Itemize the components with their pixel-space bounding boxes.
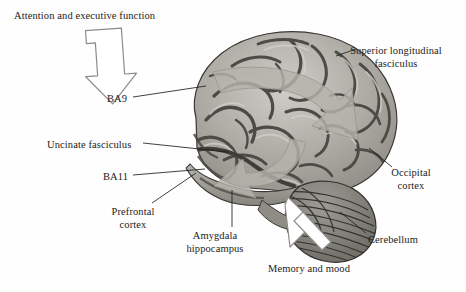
label-amygdala-hippocampus: Amygdala hippocampus bbox=[165, 230, 265, 255]
label-memory-and-mood: Memory and mood bbox=[268, 263, 350, 276]
label-ba9: BA9 bbox=[107, 93, 127, 106]
label-uncinate-fasciculus: Uncinate fasciculus bbox=[47, 139, 131, 152]
label-attention-and-executive-function: Attention and executive function bbox=[14, 10, 155, 23]
label-ba11: BA11 bbox=[103, 171, 128, 184]
label-occipital-cortex: Occipital cortex bbox=[376, 167, 446, 192]
label-cerebellum: Cerebellum bbox=[368, 234, 418, 247]
brain-anatomy-figure: Attention and executive function BA9 Unc… bbox=[0, 0, 466, 292]
label-prefrontal-cortex: Prefrontal cortex bbox=[93, 206, 173, 231]
label-superior-longitudinal-fasciculus: Superior longitudinal fasciculus bbox=[330, 45, 462, 70]
